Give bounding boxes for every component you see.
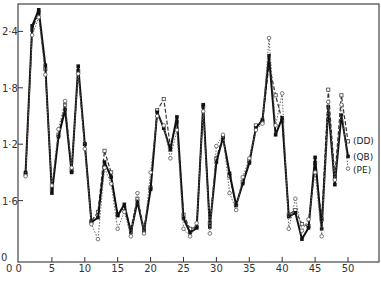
data-point bbox=[76, 72, 80, 76]
data-point bbox=[103, 149, 106, 152]
data-point bbox=[149, 188, 153, 192]
data-point bbox=[208, 232, 212, 236]
y-tick-label: 1·2 bbox=[2, 139, 18, 150]
data-point bbox=[307, 226, 311, 230]
data-point bbox=[175, 115, 179, 119]
data-point bbox=[346, 167, 350, 171]
data-point bbox=[228, 191, 232, 195]
data-point bbox=[30, 33, 34, 37]
data-point bbox=[201, 110, 205, 114]
y-tick-label: 0 bbox=[1, 252, 7, 263]
data-point bbox=[63, 99, 67, 103]
data-point bbox=[30, 24, 34, 28]
data-point bbox=[327, 88, 330, 91]
data-point bbox=[346, 140, 349, 143]
legend-label-dd: (DD) bbox=[353, 136, 374, 146]
data-point bbox=[169, 157, 173, 161]
data-point bbox=[215, 144, 219, 148]
data-point bbox=[300, 229, 304, 233]
data-point bbox=[57, 127, 61, 131]
line-chart: 01·61·21·82·4 0 05101520253035404550 (DD… bbox=[0, 0, 381, 284]
data-point bbox=[96, 237, 100, 241]
x-tick-label: 35 bbox=[243, 263, 256, 274]
x-tick-label: 25 bbox=[177, 263, 190, 274]
data-point bbox=[300, 237, 304, 241]
data-point bbox=[37, 15, 41, 19]
data-point bbox=[340, 94, 343, 97]
data-point bbox=[261, 122, 265, 126]
series-dd bbox=[24, 11, 350, 230]
data-point bbox=[313, 171, 317, 175]
x-tick-label: 10 bbox=[78, 263, 91, 274]
data-point bbox=[294, 211, 298, 215]
data-point bbox=[313, 156, 317, 160]
data-point bbox=[76, 64, 80, 68]
x-tick-label: 5 bbox=[49, 263, 55, 274]
data-point bbox=[234, 208, 238, 212]
data-point bbox=[201, 103, 205, 107]
data-point bbox=[182, 227, 186, 231]
data-point bbox=[155, 114, 159, 118]
x-tick-label: 15 bbox=[111, 263, 124, 274]
data-point bbox=[44, 73, 48, 77]
data-point bbox=[267, 36, 271, 40]
data-point bbox=[274, 124, 278, 128]
data-point bbox=[274, 133, 278, 137]
data-point bbox=[116, 214, 120, 218]
data-point bbox=[307, 218, 311, 222]
x-tick-label: 20 bbox=[144, 263, 157, 274]
data-point bbox=[136, 191, 140, 195]
y-axis: 01·61·21·82·4 bbox=[1, 26, 23, 263]
data-point bbox=[122, 210, 126, 214]
data-point bbox=[274, 94, 277, 97]
data-point bbox=[129, 235, 133, 239]
data-point bbox=[287, 215, 291, 219]
x-tick-label: 50 bbox=[342, 263, 355, 274]
data-point bbox=[50, 184, 54, 188]
data-point bbox=[162, 124, 166, 128]
data-point bbox=[116, 227, 120, 231]
x-tick-label: 45 bbox=[309, 263, 322, 274]
y-tick-label: 1·8 bbox=[2, 83, 18, 94]
legend-label-pe: (PE) bbox=[353, 165, 371, 175]
data-point bbox=[182, 217, 186, 221]
data-point bbox=[162, 97, 165, 100]
data-point bbox=[234, 204, 238, 208]
data-point bbox=[221, 133, 225, 137]
data-point bbox=[248, 157, 252, 161]
x-tick-label: 40 bbox=[276, 263, 289, 274]
data-point bbox=[142, 232, 146, 236]
data-point bbox=[109, 175, 113, 179]
data-point bbox=[83, 147, 87, 151]
data-point bbox=[70, 166, 74, 170]
data-point bbox=[333, 183, 337, 187]
data-point bbox=[287, 227, 291, 231]
series-pe bbox=[24, 15, 350, 240]
x-tick-label: 0 0 bbox=[6, 263, 22, 274]
x-axis: 0 05101520253035404550 bbox=[6, 257, 354, 274]
y-tick-label: 1·6 bbox=[2, 196, 18, 207]
legend: (DD)(QB)(PE) bbox=[353, 136, 374, 175]
data-point bbox=[326, 100, 330, 104]
data-point bbox=[155, 110, 159, 114]
data-point bbox=[188, 235, 192, 239]
data-point bbox=[149, 171, 153, 175]
data-point bbox=[90, 222, 94, 226]
data-point bbox=[333, 178, 337, 182]
series-qb bbox=[24, 8, 350, 241]
data-point bbox=[122, 203, 126, 207]
data-point bbox=[103, 160, 107, 164]
data-point bbox=[96, 216, 100, 220]
y-tick-label: 2·4 bbox=[2, 26, 18, 37]
data-point bbox=[175, 128, 179, 132]
data-point bbox=[50, 191, 54, 195]
data-point bbox=[294, 197, 298, 201]
legend-label-qb: (QB) bbox=[353, 152, 373, 162]
data-point bbox=[228, 172, 232, 176]
data-point bbox=[109, 182, 113, 186]
data-point bbox=[195, 221, 199, 225]
x-tick-label: 30 bbox=[210, 263, 223, 274]
data-point bbox=[188, 231, 192, 235]
data-point bbox=[280, 92, 284, 96]
data-point bbox=[70, 171, 74, 175]
